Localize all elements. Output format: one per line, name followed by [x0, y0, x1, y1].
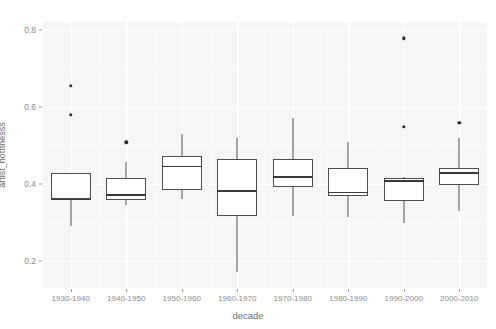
y-tick-mark: [39, 261, 42, 262]
median-line: [162, 166, 202, 168]
whisker-lower: [70, 199, 71, 226]
y-tick-label: 0.2: [8, 256, 36, 266]
box-iqr-rect: [439, 168, 479, 184]
boxplot-box-group: [162, 22, 202, 288]
x-tick-label: 1970-1980: [274, 294, 312, 303]
y-axis-title: artist_hotttnesss: [0, 122, 7, 188]
outlier-point: [69, 113, 72, 116]
whisker-lower: [403, 201, 404, 223]
gridline-minor-vertical: [376, 22, 377, 288]
x-tick-mark: [459, 289, 460, 292]
gridline-minor-vertical: [265, 22, 266, 288]
plot-panel: [43, 22, 487, 288]
box-iqr-rect: [162, 156, 202, 190]
whisker-lower: [459, 185, 460, 211]
whisker-lower: [126, 200, 127, 205]
whisker-upper: [348, 142, 349, 169]
x-tick-label: 1960-1970: [218, 294, 256, 303]
whisker-upper: [237, 138, 238, 158]
y-tick-mark: [39, 106, 42, 107]
x-tick-mark: [71, 289, 72, 292]
median-line: [106, 194, 146, 196]
y-tick-label: 0.6: [8, 102, 36, 112]
boxplot-box-group: [273, 22, 313, 288]
boxplot-box-group: [439, 22, 479, 288]
boxplot-box-group: [384, 22, 424, 288]
whisker-lower: [237, 216, 238, 272]
boxplot-figure: artist_hotttnesss 0.20.40.60.8 1930-1940…: [0, 0, 496, 329]
gridline-minor-vertical: [99, 22, 100, 288]
gridline-minor-vertical: [321, 22, 322, 288]
whisker-lower: [348, 196, 349, 216]
median-line: [439, 172, 479, 174]
boxplot-box-group: [106, 22, 146, 288]
x-tick-label: 1980-1990: [329, 294, 367, 303]
median-line: [217, 190, 257, 192]
x-tick-label: 1930-1940: [52, 294, 90, 303]
whisker-lower: [292, 187, 293, 216]
x-tick-label: 1990-2000: [385, 294, 423, 303]
median-line: [384, 180, 424, 182]
median-line: [328, 192, 368, 194]
outlier-point: [125, 141, 128, 144]
boxplot-box-group: [51, 22, 91, 288]
outlier-point: [402, 36, 405, 39]
outlier-point: [69, 84, 72, 87]
box-iqr-rect: [106, 178, 146, 200]
gridline-minor-vertical: [210, 22, 211, 288]
whisker-upper: [459, 138, 460, 169]
x-tick-mark: [126, 289, 127, 292]
x-tick-label: 1950-1960: [163, 294, 201, 303]
x-tick-label: 2000-2010: [440, 294, 478, 303]
median-line: [51, 199, 91, 201]
whisker-upper: [126, 162, 127, 179]
whisker-upper: [181, 134, 182, 156]
x-tick-mark: [237, 289, 238, 292]
outlier-point: [458, 121, 461, 124]
x-tick-mark: [348, 289, 349, 292]
median-line: [273, 176, 313, 178]
x-tick-mark: [293, 289, 294, 292]
whisker-upper: [292, 118, 293, 159]
whisker-lower: [181, 190, 182, 199]
y-tick-label: 0.4: [8, 179, 36, 189]
y-tick-mark: [39, 29, 42, 30]
x-tick-mark: [182, 289, 183, 292]
gridline-minor-vertical: [154, 22, 155, 288]
box-iqr-rect: [51, 173, 91, 199]
box-iqr-rect: [273, 159, 313, 187]
x-axis-title: decade: [0, 310, 496, 321]
box-iqr-rect: [217, 159, 257, 216]
y-tick-mark: [39, 183, 42, 184]
outlier-point: [402, 125, 405, 128]
y-tick-label: 0.8: [8, 25, 36, 35]
x-tick-mark: [404, 289, 405, 292]
boxplot-box-group: [217, 22, 257, 288]
gridline-minor-vertical: [432, 22, 433, 288]
boxplot-box-group: [328, 22, 368, 288]
x-tick-label: 1940-1950: [107, 294, 145, 303]
